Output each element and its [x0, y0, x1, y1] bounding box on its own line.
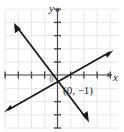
graph-canvas: y x 0 (0, −1) [0, 0, 124, 132]
x-axis-label: x [112, 71, 118, 83]
intersection-point-label: (0, −1) [63, 84, 93, 97]
grid-lines [5, 9, 118, 128]
y-axis [55, 7, 59, 128]
descending-line [14, 23, 89, 123]
origin-label: 0 [50, 75, 54, 84]
y-axis-label: y [48, 2, 54, 14]
coordinate-graph-figure: y x 0 (0, −1) [0, 0, 124, 132]
